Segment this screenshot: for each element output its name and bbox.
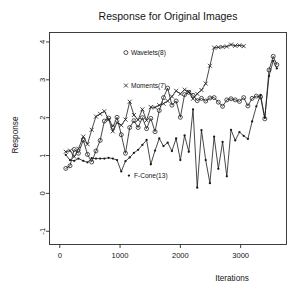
- y-axis-label: Response: [11, 116, 20, 153]
- data-point-dot: [77, 157, 79, 159]
- data-point-dot: [188, 151, 190, 153]
- data-point-dot: [133, 152, 135, 154]
- x-tick-label: 0: [58, 251, 62, 260]
- data-point-dot: [247, 138, 249, 140]
- annotation-label: Wavelets(8): [131, 49, 166, 57]
- annotation-moments7: Moments(7): [124, 82, 166, 90]
- data-point-dot: [268, 75, 270, 77]
- x-tick-label: 3000: [232, 251, 249, 260]
- x-axis-label: Iterations: [215, 274, 249, 283]
- data-point-dot: [200, 129, 202, 131]
- data-point-dot: [99, 157, 101, 159]
- data-point-dot: [205, 159, 207, 161]
- data-point-dot: [238, 131, 240, 133]
- y-tick-label: 1: [38, 153, 47, 157]
- data-point-dot: [226, 175, 228, 177]
- data-point-dot: [196, 187, 198, 189]
- data-point-dot: [128, 174, 130, 176]
- data-point-dot: [86, 161, 88, 163]
- data-point-dot: [65, 154, 67, 156]
- data-point-dot: [158, 137, 160, 139]
- data-point-dot: [192, 108, 194, 110]
- annotation-label: Moments(7): [131, 82, 166, 90]
- data-point-dot: [209, 182, 211, 184]
- data-point-dot: [276, 67, 278, 69]
- data-point-dot: [112, 157, 114, 159]
- data-point-dot: [171, 150, 173, 152]
- data-point-dot: [251, 120, 253, 122]
- data-point-dot: [129, 156, 131, 158]
- data-point-dot: [154, 149, 156, 151]
- y-tick-label: 3: [38, 78, 47, 82]
- x-tick-label: 2000: [172, 251, 189, 260]
- data-point-dot: [183, 134, 185, 136]
- y-tick-label: 2: [38, 116, 47, 120]
- response-line-chart: Response for Original Images -101234 010…: [0, 0, 303, 295]
- data-point-dot: [69, 159, 71, 161]
- data-point-dot: [120, 170, 122, 172]
- y-tick-label: 4: [38, 40, 47, 44]
- data-point-dot: [82, 160, 84, 162]
- data-point-dot: [73, 160, 75, 162]
- data-point-dot: [230, 129, 232, 131]
- data-point-dot: [141, 144, 143, 146]
- data-point-dot: [145, 139, 147, 141]
- data-point-dot: [95, 157, 97, 159]
- chart-figure: Response for Original Images -101234 010…: [0, 0, 303, 295]
- data-point-dot: [179, 159, 181, 161]
- data-point-dot: [150, 163, 152, 165]
- data-point-dot: [167, 142, 169, 144]
- data-point-dot: [221, 141, 223, 143]
- y-tick-label: -1: [38, 228, 47, 235]
- data-point-dot: [243, 135, 245, 137]
- data-point-dot: [259, 94, 261, 96]
- data-point-dot: [107, 157, 109, 159]
- data-point-dot: [255, 105, 257, 107]
- annotation-f-cone13: F-Cone(13): [128, 172, 168, 180]
- data-point-dot: [91, 157, 93, 159]
- annotation-wavelets8: Wavelets(8): [124, 49, 166, 57]
- data-point-dot: [137, 149, 139, 151]
- data-point-dot: [175, 137, 177, 139]
- data-point-dot: [217, 168, 219, 170]
- data-point-dot: [213, 135, 215, 137]
- data-point-dot: [234, 139, 236, 141]
- x-tick-label: 1000: [112, 251, 129, 260]
- data-point-dot: [272, 60, 274, 62]
- data-point-dot: [103, 157, 105, 159]
- data-point-dot: [116, 159, 118, 161]
- data-point-dot: [124, 160, 126, 162]
- y-tick-label: 0: [38, 191, 47, 195]
- data-point-dot: [162, 145, 164, 147]
- data-point-dot: [264, 117, 266, 119]
- annotation-label: F-Cone(13): [134, 172, 168, 180]
- chart-title: Response for Original Images: [99, 10, 238, 22]
